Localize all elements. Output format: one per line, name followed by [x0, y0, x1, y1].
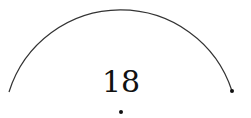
arc-label: 18	[102, 64, 140, 99]
center-point	[119, 110, 123, 114]
arc-endpoint	[230, 89, 234, 93]
arc-diagram: 18	[0, 0, 251, 118]
